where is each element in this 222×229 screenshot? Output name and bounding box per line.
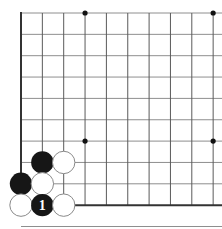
star-point-top-left — [82, 10, 87, 15]
go-board-diagram: 1 — [0, 0, 222, 229]
white-stone-1 — [53, 151, 75, 173]
black-stone-1 — [31, 151, 53, 173]
white-stone-2 — [31, 173, 53, 195]
star-point-bottom-left — [82, 139, 87, 144]
white-stone-3 — [10, 194, 32, 216]
star-point-top-right — [211, 10, 216, 15]
white-stone-disc — [53, 151, 75, 173]
go-board-canvas: 1 — [0, 0, 222, 229]
white-stone-4 — [53, 194, 75, 216]
black-stone-2 — [10, 173, 32, 195]
white-stone-disc — [31, 173, 53, 195]
black-stone-disc — [10, 173, 32, 195]
stone-move-number-label: 1 — [39, 198, 46, 213]
white-stone-disc — [10, 194, 32, 216]
black-stone-move-1: 1 — [31, 194, 53, 216]
star-point-bottom-right — [211, 139, 216, 144]
white-stone-disc — [53, 194, 75, 216]
black-stone-disc — [31, 151, 53, 173]
